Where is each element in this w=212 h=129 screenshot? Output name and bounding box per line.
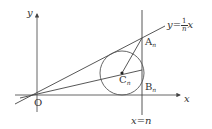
line-equation-label: y=1nx xyxy=(167,18,193,33)
point-C-label: Cn xyxy=(119,75,131,86)
origin-label: O xyxy=(34,98,42,108)
diagram: y x O y=1nx An Bn Cn x=n xyxy=(0,0,212,129)
point-B-label: Bn xyxy=(145,82,156,93)
point-A-label: An xyxy=(145,37,156,48)
y-axis-label: y xyxy=(27,8,33,18)
x-axis-label: x xyxy=(184,94,190,104)
vertical-line-label: x=n xyxy=(131,116,151,126)
